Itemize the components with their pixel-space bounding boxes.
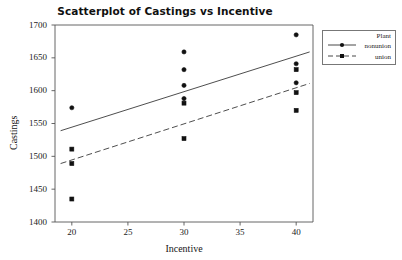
data-point-nonunion [70, 106, 74, 110]
y-tick-label: 1650 [13, 53, 47, 62]
y-tick-label: 1400 [13, 218, 47, 227]
data-point-union [182, 137, 186, 141]
y-tick-label: 1700 [13, 21, 47, 30]
legend-item-union[interactable]: union [375, 53, 391, 61]
data-point-union [182, 101, 186, 105]
data-point-union [70, 197, 74, 201]
data-point-nonunion [182, 96, 186, 100]
data-point-union [294, 108, 298, 112]
y-tick-label: 1450 [13, 185, 47, 194]
fit-line-nonunion [61, 52, 310, 131]
x-tick-label: 35 [225, 228, 255, 237]
data-point-nonunion [182, 50, 186, 54]
data-point-nonunion [294, 62, 298, 66]
y-tick-label: 1600 [13, 86, 47, 95]
legend-marker-nonunion [340, 43, 344, 47]
scatterplot-figure: Scatterplot of Castings vs Incentive Cas… [0, 0, 402, 260]
data-point-nonunion [182, 68, 186, 72]
fit-line-union [61, 83, 310, 163]
y-tick-label: 1550 [13, 119, 47, 128]
data-point-nonunion [182, 83, 186, 87]
y-tick-label: 1500 [13, 152, 47, 161]
data-point-union [70, 162, 74, 166]
x-tick-label: 20 [57, 228, 87, 237]
x-tick-label: 30 [169, 228, 199, 237]
data-point-union [294, 68, 298, 72]
data-point-nonunion [294, 33, 298, 37]
x-tick-label: 40 [281, 228, 311, 237]
x-tick-label: 25 [113, 228, 143, 237]
chart-title: Scatterplot of Castings vs Incentive [0, 5, 330, 17]
legend-item-nonunion[interactable]: nonunion [365, 42, 391, 50]
legend-marker-union [340, 54, 344, 58]
x-axis-label: Incentive [55, 243, 313, 254]
data-point-union [294, 91, 298, 95]
data-point-union [70, 147, 74, 151]
legend[interactable]: Plant nonunion union [322, 30, 396, 65]
data-point-nonunion [294, 81, 298, 85]
